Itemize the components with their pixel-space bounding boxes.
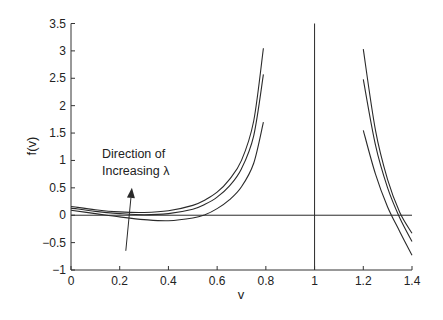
x-axis-ticks: 00.20.40.60.811.21.4 <box>68 266 421 288</box>
x-tick-label: 1.4 <box>404 274 421 288</box>
x-tick-label: 1 <box>311 274 318 288</box>
x-axis-label: v <box>238 287 245 302</box>
x-tick-label: 0.2 <box>111 274 128 288</box>
series-curve <box>363 49 412 233</box>
direction-arrow-icon <box>126 188 135 251</box>
x-tick-label: 1.2 <box>355 274 372 288</box>
y-tick-label: −0.5 <box>42 236 66 250</box>
x-tick-label: 0.6 <box>209 274 226 288</box>
x-tick-label: 0.4 <box>160 274 177 288</box>
y-axis-label: f(v) <box>24 137 39 156</box>
chart-canvas: 00.20.40.60.811.21.4 −1−0.500.511.522.53… <box>0 0 443 320</box>
y-tick-label: 3.5 <box>49 17 66 31</box>
series-curve <box>363 130 412 255</box>
annotation-line-2: Increasing λ <box>102 164 170 178</box>
y-tick-label: 0.5 <box>49 181 66 195</box>
y-tick-label: 3 <box>59 44 66 58</box>
arrow-head <box>127 188 135 198</box>
annotation-line-1: Direction of <box>102 147 166 161</box>
y-axis-ticks: −1−0.500.511.522.533.5 <box>42 17 75 278</box>
arrow-shaft <box>126 198 131 251</box>
y-tick-label: −1 <box>52 263 66 277</box>
x-tick-label: 0.8 <box>258 274 275 288</box>
y-tick-label: 2.5 <box>49 71 66 85</box>
series-curve <box>71 48 263 212</box>
annotations: Direction of Increasing λ <box>102 147 170 251</box>
y-tick-label: 1.5 <box>49 126 66 140</box>
series-curve <box>71 74 263 214</box>
y-tick-label: 0 <box>59 208 66 222</box>
x-tick-label: 0 <box>68 274 75 288</box>
y-tick-label: 1 <box>59 153 66 167</box>
y-tick-label: 2 <box>59 99 66 113</box>
